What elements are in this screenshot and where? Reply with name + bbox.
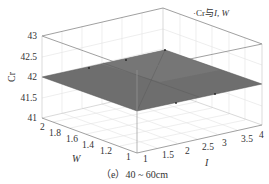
svg-text:42.5: 42.5 xyxy=(20,52,37,62)
z-axis: 43 42.5 42 41.5 41 Cr xyxy=(6,31,37,123)
svg-text:1.2: 1.2 xyxy=(100,146,112,156)
surface-chart: 43 42.5 42 41.5 41 Cr 2 1.8 1.6 1.4 1.2 … xyxy=(0,0,269,184)
svg-text:43: 43 xyxy=(28,31,38,41)
svg-text:41: 41 xyxy=(28,113,38,123)
svg-text:W: W xyxy=(72,153,82,164)
svg-text:42: 42 xyxy=(28,72,38,82)
svg-text:1: 1 xyxy=(126,152,131,162)
legend: ·Cr与I, W xyxy=(193,8,231,18)
figure-caption: （e）40 ~ 60cm xyxy=(0,166,269,181)
w-axis: 2 1.8 1.6 1.4 1.2 1 W xyxy=(40,122,131,164)
svg-text:3: 3 xyxy=(222,138,227,148)
svg-text:Cr: Cr xyxy=(6,71,17,82)
svg-text:4: 4 xyxy=(259,130,264,140)
svg-text:41.5: 41.5 xyxy=(20,93,37,103)
svg-text:3.5: 3.5 xyxy=(241,134,253,144)
svg-text:2: 2 xyxy=(40,122,45,132)
svg-text:2: 2 xyxy=(185,146,190,156)
svg-text:1.8: 1.8 xyxy=(49,128,61,138)
svg-text:2.5: 2.5 xyxy=(202,142,214,152)
svg-text:1: 1 xyxy=(143,154,148,164)
svg-text:1.6: 1.6 xyxy=(66,134,78,144)
svg-text:1.5: 1.5 xyxy=(162,150,174,160)
svg-text:·Cr与I, W: ·Cr与I, W xyxy=(193,8,231,18)
i-axis: 1 1.5 2 2.5 3 3.5 4 I xyxy=(143,130,264,168)
svg-text:1.4: 1.4 xyxy=(82,140,94,150)
